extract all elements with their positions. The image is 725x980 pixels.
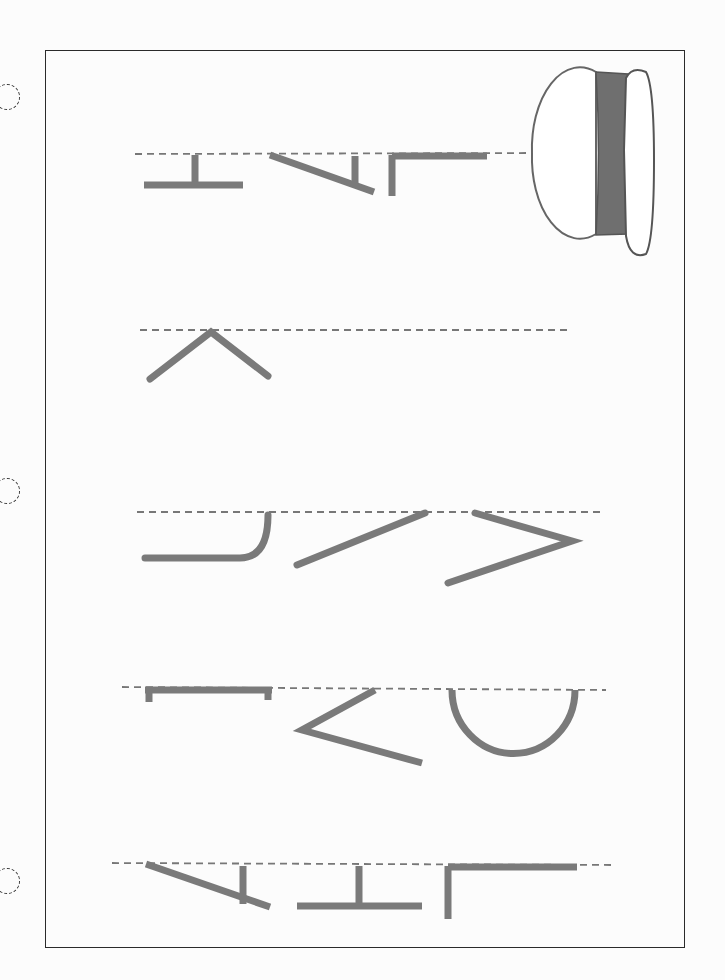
hat-icon — [532, 67, 654, 255]
tracing-artwork — [0, 0, 725, 980]
worksheet-page: HAT V J V V T Z D A T T — [0, 0, 725, 980]
row-5-strokes — [146, 864, 577, 919]
row-1-strokes — [144, 155, 487, 196]
guide-lines — [112, 153, 612, 865]
row-3-strokes — [145, 513, 572, 583]
row-2-strokes — [150, 332, 268, 379]
row-4-strokes — [145, 690, 575, 763]
